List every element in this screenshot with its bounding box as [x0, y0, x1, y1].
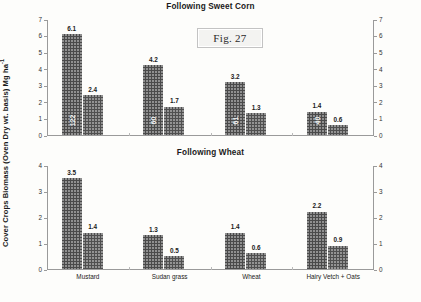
- y-axis-left-tick: [44, 192, 47, 193]
- plot-area-sweet-corn: 00112233445566776.11222.44.2601.73.2611.…: [47, 20, 374, 136]
- bar-value-label: 0.6: [242, 245, 270, 251]
- bar-inner-label: 40: [313, 111, 320, 131]
- y-axis-left-tick-label: 2: [38, 215, 42, 221]
- y-axis-right-tick: [374, 270, 377, 271]
- bar: [164, 107, 184, 135]
- bar: [246, 113, 266, 135]
- x-axis-group-separator: [211, 133, 212, 136]
- y-axis-right-tick-label: 7: [379, 17, 383, 23]
- bar-value-label: 4.2: [139, 57, 167, 63]
- bar-value-label: 0.5: [160, 248, 188, 254]
- y-axis-right-tick: [374, 53, 377, 54]
- y-axis-left-tick-label: 6: [38, 33, 42, 39]
- y-axis-right-tick-label: 2: [379, 215, 383, 221]
- y-axis-right-tick-label: 2: [379, 100, 383, 106]
- y-axis-right-tick-label: 1: [379, 116, 383, 122]
- bar-value-label: 3.2: [221, 74, 249, 80]
- y-axis-right-tick: [374, 69, 377, 70]
- y-axis-right-tick-label: 1: [379, 241, 383, 247]
- y-axis-left-tick-label: 3: [38, 83, 42, 89]
- chart-panel-sweet-corn: Following Sweet Corn 00112233445566776.1…: [0, 2, 421, 142]
- y-axis-left-tick: [44, 53, 47, 54]
- chart-title-wheat: Following Wheat: [0, 148, 421, 157]
- y-axis-right-tick: [374, 119, 377, 120]
- bar: [328, 246, 348, 269]
- y-axis-left-tick: [44, 119, 47, 120]
- y-axis-right-tick-label: 3: [379, 83, 383, 89]
- plot-area-wheat: 00112233443.51.41.30.51.40.62.20.9: [47, 166, 374, 270]
- y-axis-right-tick-label: 6: [379, 33, 383, 39]
- x-axis-group-separator: [292, 267, 293, 270]
- y-axis-left-tick-label: 0: [38, 267, 42, 273]
- y-axis-right-tick-label: 0: [379, 133, 383, 139]
- chart-panel-wheat: Following Wheat 00112233443.51.41.30.51.…: [0, 148, 421, 298]
- x-axis-group-separator: [129, 133, 130, 136]
- x-axis-group-separator: [211, 267, 212, 270]
- y-axis-right-tick: [374, 136, 377, 137]
- y-axis-left-tick-label: 3: [38, 189, 42, 195]
- bar: [164, 256, 184, 269]
- y-axis-left-tick: [44, 244, 47, 245]
- y-axis-left-tick-label: 1: [38, 241, 42, 247]
- bar: [83, 233, 103, 269]
- y-axis-right-tick: [374, 218, 377, 219]
- x-axis-category-label: Sudan grass: [129, 274, 211, 280]
- y-axis-right-tick: [374, 20, 377, 21]
- bar-value-label: 1.4: [79, 224, 107, 230]
- y-axis-left-tick-label: 5: [38, 50, 42, 56]
- y-axis-left-tick: [44, 102, 47, 103]
- y-axis-right-tick-label: 5: [379, 50, 383, 56]
- bar-value-label: 3.5: [58, 170, 86, 176]
- bar-value-label: 1.4: [303, 103, 331, 109]
- x-axis-category-label: Hairy Vetch + Oats: [292, 274, 374, 280]
- bar-value-label: 1.3: [242, 105, 270, 111]
- bar-value-label: 2.2: [303, 203, 331, 209]
- y-axis-left-tick: [44, 166, 47, 167]
- x-axis-category-label: Wheat: [211, 274, 293, 280]
- bar-inner-label: 122: [68, 111, 75, 131]
- y-axis-left-tick: [44, 136, 47, 137]
- bar-value-label: 1.3: [139, 227, 167, 233]
- y-axis-left-tick-label: 4: [38, 163, 42, 169]
- chart-title-sweet-corn: Following Sweet Corn: [0, 2, 421, 11]
- y-axis-left-tick: [44, 86, 47, 87]
- bar-value-label: 0.6: [324, 117, 352, 123]
- y-axis-right-tick: [374, 36, 377, 37]
- y-axis-right-tick: [374, 166, 377, 167]
- y-axis-left-tick: [44, 218, 47, 219]
- y-axis-right-tick-label: 0: [379, 267, 383, 273]
- y-axis-left-line: [47, 20, 48, 136]
- bar-value-label: 2.4: [79, 87, 107, 93]
- y-axis-left-line: [47, 166, 48, 270]
- bar-inner-label: 60: [150, 111, 157, 131]
- y-axis-right-tick-label: 4: [379, 163, 383, 169]
- y-axis-left-tick-label: 0: [38, 133, 42, 139]
- figure-root: Cover Crops Biomass (Oven Dry wt. basis)…: [0, 0, 421, 302]
- y-axis-left-tick-label: 1: [38, 116, 42, 122]
- y-axis-left-tick: [44, 270, 47, 271]
- y-axis-left-tick-label: 7: [38, 17, 42, 23]
- x-axis-category-label: Mustard: [47, 274, 129, 280]
- y-axis-left-tick: [44, 36, 47, 37]
- y-axis-right-tick: [374, 86, 377, 87]
- bar: [328, 125, 348, 135]
- bar-value-label: 1.7: [160, 98, 188, 104]
- bar-value-label: 6.1: [58, 26, 86, 32]
- y-axis-left-tick-label: 4: [38, 67, 42, 73]
- x-axis-group-separator: [292, 133, 293, 136]
- bar-inner-label: 61: [232, 111, 239, 131]
- y-axis-right-tick-label: 4: [379, 67, 383, 73]
- x-axis-group-separator: [129, 267, 130, 270]
- y-axis-left-tick: [44, 20, 47, 21]
- bar: [246, 253, 266, 269]
- y-axis-right-tick-label: 3: [379, 189, 383, 195]
- bar-value-label: 0.9: [324, 237, 352, 243]
- y-axis-left-tick-label: 2: [38, 100, 42, 106]
- bar: [83, 95, 103, 135]
- y-axis-right-tick: [374, 192, 377, 193]
- y-axis-right-tick: [374, 244, 377, 245]
- x-axis-category-labels: MustardSudan grassWheatHairy Vetch + Oat…: [47, 274, 374, 286]
- y-axis-right-tick: [374, 102, 377, 103]
- bar-value-label: 1.4: [221, 224, 249, 230]
- y-axis-left-tick: [44, 69, 47, 70]
